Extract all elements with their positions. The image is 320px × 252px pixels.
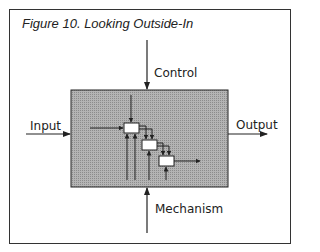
process-box-2: [142, 140, 157, 150]
output-label: Output: [236, 118, 278, 132]
process-box-3: [159, 156, 174, 166]
control-label: Control: [154, 66, 197, 80]
input-label: Input: [30, 119, 61, 133]
process-box-1: [124, 123, 139, 133]
mechanism-label: Mechanism: [155, 202, 223, 216]
